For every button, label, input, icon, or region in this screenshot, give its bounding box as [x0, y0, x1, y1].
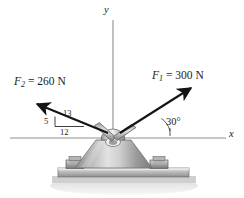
f2-equals: =	[25, 75, 37, 87]
x-axis-label: x	[229, 129, 234, 140]
y-axis-label: y	[104, 5, 109, 16]
right-hex-bolt	[150, 157, 168, 169]
ground-slab	[50, 176, 198, 195]
force-label-f1: F1 = 300 N	[152, 70, 204, 83]
mounting-plate	[58, 168, 189, 177]
f1-unit: N	[195, 69, 203, 81]
f2-magnitude: 260	[37, 75, 54, 87]
f1-magnitude: 300	[175, 69, 192, 81]
f1-equals: =	[163, 69, 175, 81]
angle-label-30: 30°	[166, 117, 181, 128]
f2-unit: N	[57, 75, 65, 87]
force-diagram-canvas	[0, 0, 244, 198]
triangle-horizontal-label: 12	[60, 128, 69, 137]
f1-symbol: F	[152, 69, 159, 81]
triangle-vertical-label: 5	[44, 117, 48, 126]
triangle-hypotenuse-label: 13	[63, 109, 72, 118]
f2-symbol: F	[14, 75, 21, 87]
force-label-f2: F2 = 260 N	[14, 76, 66, 89]
